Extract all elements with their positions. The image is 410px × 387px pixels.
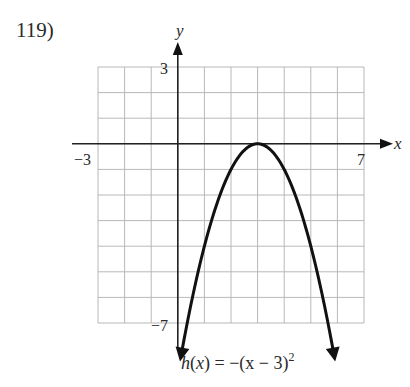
y-max-label: 3 [160, 60, 168, 77]
equation-equals: = [215, 353, 225, 373]
x-axis-label: x [393, 134, 402, 153]
y-min-label: −7 [151, 317, 168, 334]
equation-rhs: −(x − 3) [229, 353, 288, 373]
equation-var: x [196, 353, 204, 373]
equation-exponent: 2 [288, 350, 294, 364]
grid [98, 67, 364, 323]
x-max-label: 7 [357, 151, 365, 168]
x-min-label: −3 [74, 151, 91, 168]
equation-fn: h [181, 353, 190, 373]
graph: y x 3 −3 7 −7 [0, 0, 410, 387]
y-axis-label: y [174, 21, 184, 40]
function-equation: h(x) = −(x − 3)2 [181, 350, 294, 374]
axes [72, 42, 393, 350]
